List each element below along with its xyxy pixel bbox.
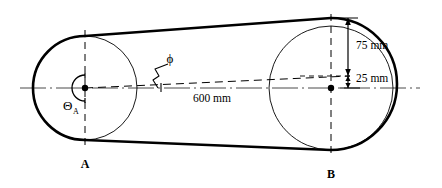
- belt-span-lower: [85, 140, 331, 150]
- slant-reference-line: [85, 76, 350, 88]
- pulley-a-center-dot: [82, 85, 88, 91]
- belt-span-upper: [85, 18, 331, 36]
- dim-25-arrowhead-bottom: [345, 83, 350, 88]
- wrap-angle-theta-label: ΘA: [63, 98, 79, 116]
- belt-drive-canvas: ϕ ΘA 600 mm 75 mm 25 mm A B: [0, 0, 442, 188]
- lower-offset-label: 25 mm: [356, 72, 388, 84]
- pulley-a-label: A: [81, 157, 90, 171]
- center-distance-label: 600 mm: [193, 92, 231, 104]
- upper-offset-label: 75 mm: [356, 39, 388, 51]
- belt-angle-phi-label: ϕ: [167, 51, 174, 66]
- wrap-angle-theta-symbol: Θ: [63, 98, 72, 113]
- belt-arc-pulley-b: [331, 18, 397, 150]
- pulley-b-label: B: [327, 167, 335, 181]
- dim-75-arrowhead-bottom: [345, 69, 351, 76]
- belt-drive-diagram: ϕ ΘA 600 mm 75 mm 25 mm A B: [0, 0, 442, 188]
- wrap-angle-theta-subscript: A: [73, 107, 79, 116]
- pulley-b-center-dot: [328, 85, 334, 91]
- dim-25-arrowhead-top: [345, 76, 350, 81]
